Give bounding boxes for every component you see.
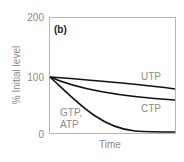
x-axis-label: Time bbox=[99, 139, 121, 150]
chart: 200 100 0 % Initial level Time (b) UTP C… bbox=[0, 0, 184, 162]
y-tick-100: 100 bbox=[27, 72, 44, 83]
y-axis-label: % Initial level bbox=[11, 46, 22, 104]
panel-label: (b) bbox=[54, 24, 67, 35]
y-tick-0: 0 bbox=[38, 129, 44, 140]
series-label-ctp: CTP bbox=[141, 103, 161, 114]
chart-svg: 200 100 0 % Initial level Time (b) UTP C… bbox=[0, 0, 184, 162]
series-label-gtp: GTP, bbox=[60, 107, 82, 118]
series-label-utp: UTP bbox=[141, 71, 161, 82]
y-tick-200: 200 bbox=[27, 12, 44, 23]
series-label-atp: ATP bbox=[60, 119, 79, 130]
